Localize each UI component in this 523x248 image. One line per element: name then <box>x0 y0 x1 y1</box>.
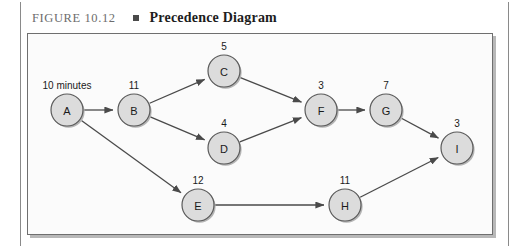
node-label: I <box>455 143 458 155</box>
precedence-diagram: A10 minutesB11C5D4E12F3G7H11I3 <box>27 33 493 235</box>
node-label: E <box>194 200 201 212</box>
node-duration: 10 minutes <box>43 80 92 91</box>
node-label: H <box>341 200 349 212</box>
node-duration: 5 <box>221 41 227 52</box>
node-f: F3 <box>305 80 339 128</box>
nodes-layer: A10 minutesB11C5D4E12F3G7H11I3 <box>43 41 475 223</box>
square-bullet-icon <box>133 15 139 21</box>
edge-b-d <box>150 117 205 140</box>
node-c: C5 <box>208 41 242 89</box>
node-label: G <box>382 105 391 117</box>
node-label: C <box>220 66 228 78</box>
node-label: D <box>220 143 228 155</box>
figure-header: FIGURE 10.12 Precedence Diagram <box>32 8 277 28</box>
node-label: F <box>318 105 325 117</box>
node-label: B <box>130 105 137 117</box>
node-duration: 11 <box>129 80 140 91</box>
edge-a-e <box>81 120 181 193</box>
edge-g-i <box>401 118 438 138</box>
edge-b-c <box>150 79 205 103</box>
figure-block: FIGURE 10.12 Precedence Diagram A10 minu… <box>0 0 523 248</box>
node-d: D4 <box>208 118 242 166</box>
node-e: E12 <box>182 175 216 223</box>
node-h: H11 <box>329 175 363 223</box>
node-duration: 4 <box>221 118 227 129</box>
node-b: B11 <box>118 80 152 128</box>
node-duration: 7 <box>383 80 389 91</box>
node-duration: 3 <box>454 118 460 129</box>
node-duration: 3 <box>318 80 324 91</box>
edge-d-f <box>240 118 302 142</box>
edge-c-f <box>240 77 302 102</box>
edge-h-i <box>360 158 438 198</box>
right-margin-rule <box>508 2 509 246</box>
node-label: A <box>63 105 71 117</box>
node-duration: 12 <box>192 175 204 186</box>
node-a: A10 minutes <box>43 80 92 128</box>
left-margin-rule <box>20 2 21 246</box>
figure-number: FIGURE 10.12 <box>32 11 116 26</box>
figure-title: Precedence Diagram <box>150 10 277 26</box>
node-g: G7 <box>370 80 404 128</box>
node-i: I3 <box>441 118 475 166</box>
node-duration: 11 <box>340 175 351 186</box>
